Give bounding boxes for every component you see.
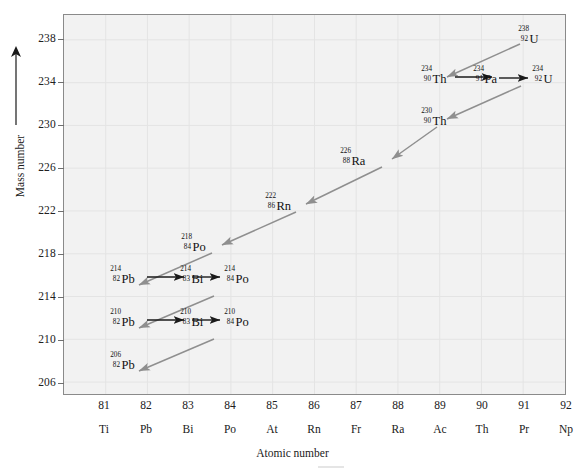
nuclide-indices: 23490 (419, 71, 432, 83)
y-tickmark-214 (58, 297, 64, 298)
x-symbol-ra: Ra (378, 423, 418, 435)
nuclide-206Pb: 20682Pb (108, 357, 135, 372)
x-tick-90: 90 (462, 399, 502, 411)
x-symbol-rn: Rn (294, 423, 334, 435)
nuclide-indices: 21482 (108, 271, 121, 283)
nuclide-indices: 23491 (471, 71, 484, 83)
y-tickmark-218 (58, 254, 64, 255)
y-tickmark-234 (58, 82, 64, 83)
x-symbol-pr: Pr (504, 423, 544, 435)
nuclide-226Ra: 22688Ra (338, 153, 365, 168)
nuclide-234Pa: 23491Pa (471, 71, 497, 86)
nuclide-238U: 23892U (516, 31, 539, 46)
y-tick-206: 206 (12, 376, 56, 388)
nuclide-210Po: 21084Po (222, 314, 249, 329)
y-tick-214: 214 (12, 290, 56, 302)
x-tick-88: 88 (378, 399, 418, 411)
x-symbol-tl: Ti (84, 423, 124, 435)
x-axis-label: Atomic number (0, 447, 585, 459)
x-symbol-np: Np (546, 423, 585, 435)
x-symbol-th: Th (462, 423, 502, 435)
nuclide-218Po: 21884Po (179, 239, 206, 254)
nuclide-indices: 22286 (263, 198, 276, 210)
nuclide-234U: 23492U (530, 71, 553, 86)
x-tick-92: 92 (546, 399, 585, 411)
nuclide-indices: 20682 (108, 357, 121, 369)
y-tick-210: 210 (12, 333, 56, 345)
nuclide-214Po: 21484Po (222, 271, 249, 286)
nuclide-214Pb: 21482Pb (108, 271, 135, 286)
x-tick-82: 82 (126, 399, 166, 411)
x-tick-83: 83 (168, 399, 208, 411)
y-tickmark-238 (58, 39, 64, 40)
nuclide-indices: 23492 (530, 71, 543, 83)
x-symbol-at: At (252, 423, 292, 435)
nuclide-indices: 21082 (108, 314, 121, 326)
x-symbol-ac: Ac (420, 423, 460, 435)
x-tick-86: 86 (294, 399, 334, 411)
nuclide-indices: 22688 (338, 153, 351, 165)
x-tick-85: 85 (252, 399, 292, 411)
nuclide-indices: 21483 (178, 271, 191, 283)
y-axis-direction-arrow (9, 45, 23, 125)
x-tick-91: 91 (504, 399, 544, 411)
x-tick-84: 84 (210, 399, 250, 411)
nuclide-indices: 21083 (178, 314, 191, 326)
y-axis-label: Mass number (14, 116, 26, 216)
x-symbol-pb: Pb (126, 423, 166, 435)
x-tick-89: 89 (420, 399, 460, 411)
y-tickmark-230 (58, 125, 64, 126)
nuclide-230Th: 23090Th (419, 113, 446, 128)
nuclide-indices: 21084 (222, 314, 235, 326)
y-tickmark-222 (58, 211, 64, 212)
nuclide-indices: 23090 (419, 113, 432, 125)
x-symbol-fr: Fr (336, 423, 376, 435)
nuclide-234Th: 23490Th (419, 71, 446, 86)
y-tick-238: 238 (12, 32, 56, 44)
nuclide-214Bi: 21483Bi (178, 271, 203, 286)
decay-series-figure: 23892U 23490Th 23491Pa 23492U 23090Th 22… (0, 0, 585, 473)
page-edge-artifact (318, 466, 344, 468)
nuclide-indices: 23892 (516, 31, 529, 43)
nuclide-222Rn: 22286Rn (263, 198, 291, 213)
nuclide-indices: 21884 (179, 239, 192, 251)
nuclide-210Bi: 21083Bi (178, 314, 203, 329)
nuclide-indices: 21484 (222, 271, 235, 283)
x-symbol-bi: Bi (168, 423, 208, 435)
nuclide-210Pb: 21082Pb (108, 314, 135, 329)
y-tickmark-226 (58, 168, 64, 169)
y-tickmark-206 (58, 383, 64, 384)
x-symbol-po: Po (210, 423, 250, 435)
x-tick-81: 81 (84, 399, 124, 411)
y-tickmark-210 (58, 340, 64, 341)
x-tick-87: 87 (336, 399, 376, 411)
y-tick-218: 218 (12, 247, 56, 259)
